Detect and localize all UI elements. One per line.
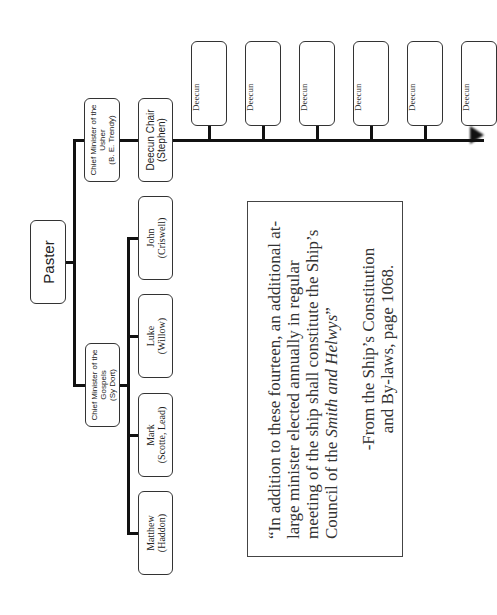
evangelist-spine [127, 237, 130, 535]
deecun-chair-box: Deecun Chair (Stephen) [138, 98, 173, 182]
deecun-label: Deecun [353, 84, 363, 111]
deecun-drop [208, 126, 211, 140]
evangelist-person: (Criswell) [156, 218, 167, 259]
deecun-label: Deecun [191, 84, 201, 111]
usher-box: Chief Minister of the Usher (B. E. Trend… [84, 98, 120, 182]
deecun-drop [424, 126, 427, 140]
deecun-chair-name: (Stephen) [156, 109, 167, 170]
continuation-arrow-icon [470, 126, 484, 144]
evangelist-name: Mark [145, 407, 156, 464]
evangelist-name: Luke [145, 318, 156, 354]
deecun-box: Deecun [299, 41, 335, 126]
mark-connector [127, 434, 138, 437]
usher-name: (B. E. Trendy) [107, 104, 116, 175]
deecun-drop [370, 126, 373, 140]
john-box: John (Criswell) [138, 196, 173, 280]
evangelist-person: (Haddon) [156, 514, 167, 552]
gospels-box: Chief Minister of the Gospels (Sy Dort) [85, 343, 120, 427]
quote-text: “In addition to these fourteen, an addit… [265, 217, 341, 539]
deecun-drop [316, 126, 319, 140]
gospels-title: Chief Minister of the [89, 349, 98, 420]
evangelist-name: Matthew [145, 514, 156, 552]
evangelist-person: (Willow) [156, 318, 167, 354]
evangelist-person: (Scotte, Lead) [156, 407, 167, 464]
deecun-box: Deecun [353, 41, 389, 126]
evangelist-name: John [145, 218, 156, 259]
deecun-label: Deecun [461, 84, 471, 111]
luke-box: Luke (Willow) [138, 294, 173, 378]
deecun-label: Deecun [245, 84, 255, 111]
quote-italic: Smith and Helwys [322, 315, 341, 438]
deecun-box: Deecun [461, 41, 497, 126]
gospels-connector [73, 384, 85, 387]
deecun-bus [120, 139, 484, 142]
matthew-connector [127, 532, 138, 535]
john-connector [127, 237, 138, 240]
deecun-box: Deecun [245, 41, 281, 126]
luke-connector [127, 335, 138, 338]
deecun-label: Deecun [299, 84, 309, 111]
deecun-label: Deecun [407, 84, 417, 111]
gospels-name: (Sy Dort) [107, 349, 116, 420]
deecun-box: Deecun [407, 41, 443, 126]
deecun-chair-title: Deecun Chair [145, 109, 156, 170]
deecun-box: Deecun [191, 41, 227, 126]
matthew-box: Matthew (Haddon) [138, 491, 173, 575]
paster-connector [66, 261, 75, 264]
usher-title: Chief Minister of the [89, 104, 98, 175]
mark-box: Mark (Scotte, Lead) [138, 393, 173, 477]
deecun-drop [262, 126, 265, 140]
paster-box: Paster [30, 220, 66, 304]
paster-label: Paster [40, 240, 57, 283]
gospels-title2: Gospels [98, 349, 107, 420]
quote-box: “In addition to these fourteen, an addit… [247, 201, 403, 557]
usher-title2: Usher [98, 104, 107, 175]
quote-source: -From the Ship’s Constitution and By-law… [359, 209, 397, 489]
